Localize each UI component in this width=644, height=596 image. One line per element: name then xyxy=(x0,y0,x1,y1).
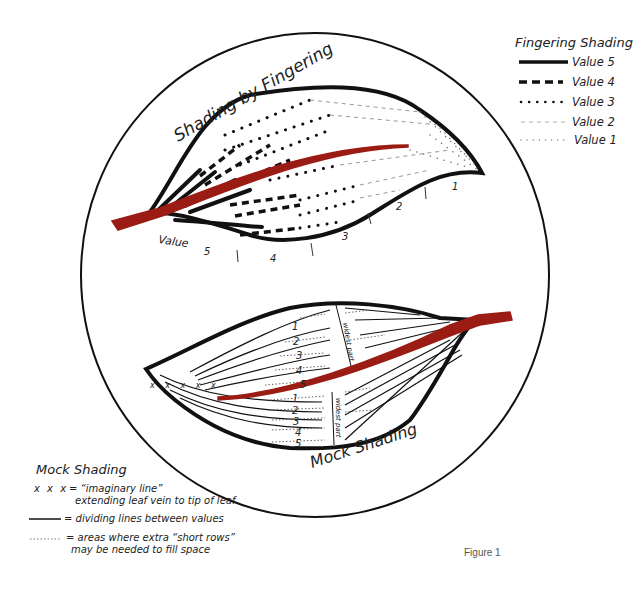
legend-mock-shading: Mock Shading x x x = “imaginary line” ex… xyxy=(29,462,237,555)
leaf-shading-by-fingering: Value 5 4 3 2 1 Shading by Fingering xyxy=(112,38,482,264)
legend-label-value1: Value 1 xyxy=(574,133,617,147)
lower-value-1: 1 xyxy=(292,393,298,404)
leaf-vein xyxy=(218,312,512,400)
figure-label: Figure 1 xyxy=(464,547,501,558)
diagram-canvas: Value 5 4 3 2 1 Shading by Fingering xyxy=(0,0,644,596)
lower-value-5: 5 xyxy=(295,438,301,449)
value-marker-5: 5 xyxy=(204,246,210,257)
upper-value-4: 4 xyxy=(296,365,302,376)
lower-value-2: 2 xyxy=(292,405,298,416)
leaf-top-title: Shading by Fingering xyxy=(170,38,337,146)
legend-label-value5: Value 5 xyxy=(572,55,615,69)
legend-mock-text-dividing: = dividing lines between values xyxy=(64,513,224,524)
legend-fingering-title: Fingering Shading xyxy=(515,35,633,50)
value-label: Value xyxy=(158,233,190,250)
widest-label-lower: widest part xyxy=(334,398,342,438)
legend-label-value3: Value 3 xyxy=(572,95,615,109)
upper-value-1: 1 xyxy=(292,321,298,332)
legend-label-value4: Value 4 xyxy=(572,75,615,89)
upper-value-5: 5 xyxy=(300,379,306,390)
legend-mock-text-imaginary-2: extending leaf vein to tip of leaf xyxy=(75,495,237,506)
lower-value-4: 4 xyxy=(295,427,301,438)
legend-fingering-shading: Fingering Shading Value 5 Value 4 Value … xyxy=(515,35,633,147)
lower-value-3: 3 xyxy=(293,416,299,427)
value-marker-2: 2 xyxy=(396,201,402,212)
value1-dots xyxy=(410,112,478,170)
upper-value-3: 3 xyxy=(296,350,302,361)
value-marker-4: 4 xyxy=(270,253,276,264)
legend-mock-text-shortrows-2: may be needed to fill space xyxy=(71,544,210,555)
legend-label-value2: Value 2 xyxy=(572,115,615,129)
legend-mock-symbol-x: x x x xyxy=(33,483,68,494)
upper-value-2: 2 xyxy=(293,336,299,347)
imaginary-line-marks: x x x x x xyxy=(149,381,220,390)
value-marker-1: 1 xyxy=(452,181,458,192)
legend-mock-title: Mock Shading xyxy=(36,462,127,477)
widest-label-upper: widest part xyxy=(341,322,356,362)
legend-mock-text-shortrows: = areas where extra “short rows” xyxy=(66,532,236,543)
enclosing-circle xyxy=(81,33,549,517)
value-marker-3: 3 xyxy=(342,231,348,242)
leaf-mock-shading: widest part widest part x x x x x 1 2 3 … xyxy=(146,303,512,472)
legend-mock-text-imaginary: = “imaginary line” xyxy=(69,483,163,494)
leaf-bottom-title: Mock Shading xyxy=(307,419,419,472)
